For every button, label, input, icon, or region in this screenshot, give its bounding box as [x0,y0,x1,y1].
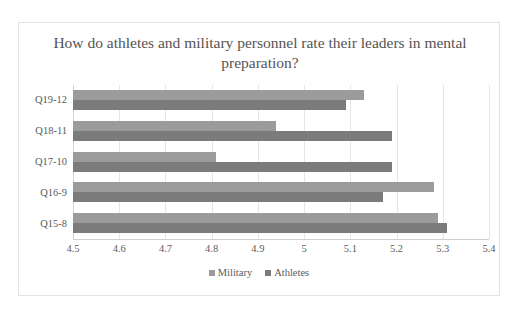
bar-group: Q19-12 [73,85,489,116]
legend-label: Military [218,267,252,278]
category-label-q18-11: Q18-11 [15,125,67,137]
x-axis-line [73,239,489,240]
bar-military-q18-11[interactable] [73,121,276,131]
category-label-q17-10: Q17-10 [15,156,67,168]
x-tick-label-4.6: 4.6 [99,243,139,254]
bar-military-q15-8[interactable] [73,213,438,223]
legend-swatch-icon [209,270,215,276]
category-label-q15-8: Q15-8 [15,218,67,230]
bar-group: Q15-8 [73,208,489,239]
x-tick-label-4.7: 4.7 [145,243,185,254]
bar-athletes-q17-10[interactable] [73,162,392,172]
category-label-q16-9: Q16-9 [15,187,67,199]
x-tick-label-5: 5 [284,243,324,254]
bar-athletes-q18-11[interactable] [73,131,392,141]
bar-military-q16-9[interactable] [73,182,434,192]
bar-group: Q18-11 [73,116,489,147]
chart-title: How do athletes and military personnel r… [41,33,479,73]
legend: MilitaryAthletes [19,267,499,278]
gridline-5.4 [489,85,490,239]
legend-label: Athletes [274,267,309,278]
category-label-q19-12: Q19-12 [15,94,67,106]
x-tick-label-4.8: 4.8 [192,243,232,254]
x-tick-label-5.4: 5.4 [469,243,509,254]
bar-group: Q16-9 [73,177,489,208]
bar-military-q17-10[interactable] [73,152,216,162]
x-tick-label-5.1: 5.1 [330,243,370,254]
legend-item-athletes[interactable]: Athletes [265,267,309,278]
bar-military-q19-12[interactable] [73,90,364,100]
x-tick-label-5.2: 5.2 [377,243,417,254]
bar-athletes-q15-8[interactable] [73,223,447,233]
plot-area: Q19-12Q18-11Q17-10Q16-9Q15-8 [73,85,489,239]
bar-athletes-q19-12[interactable] [73,100,346,110]
x-tick-label-4.9: 4.9 [238,243,278,254]
bar-group: Q17-10 [73,147,489,178]
legend-swatch-icon [265,270,271,276]
x-tick-label-5.3: 5.3 [423,243,463,254]
x-tick-label-4.5: 4.5 [53,243,93,254]
legend-item-military[interactable]: Military [209,267,252,278]
chart-frame: How do athletes and military personnel r… [18,22,500,296]
bar-athletes-q16-9[interactable] [73,192,383,202]
